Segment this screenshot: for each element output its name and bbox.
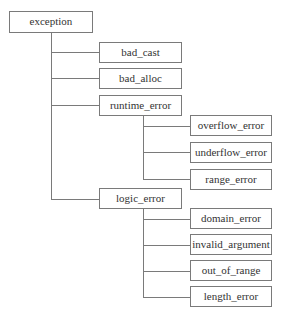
node-overflow-error: overflow_error — [190, 115, 272, 136]
connector-domain-error — [143, 219, 190, 220]
connector-underflow-error — [143, 152, 190, 153]
exception-hierarchy-diagram: exception bad_cast bad_alloc runtime_err… — [0, 0, 283, 320]
connector-out-of-range — [143, 271, 190, 272]
connector-runtime-error — [51, 105, 99, 106]
connector-overflow-error — [143, 126, 190, 127]
node-runtime-error: runtime_error — [99, 95, 182, 116]
node-invalid-argument: invalid_argument — [190, 234, 272, 255]
node-length-error: length_error — [190, 286, 272, 307]
connector-length-error — [143, 297, 190, 298]
connector-invalid-argument — [143, 245, 190, 246]
connector-bad-alloc — [51, 78, 99, 79]
node-underflow-error: underflow_error — [190, 142, 272, 163]
connector-logic-error — [51, 199, 99, 200]
node-bad-alloc: bad_alloc — [99, 68, 182, 89]
logic-error-branch-line — [143, 209, 144, 298]
root-trunk-line — [51, 32, 52, 200]
node-out-of-range: out_of_range — [190, 260, 272, 281]
node-bad-cast: bad_cast — [99, 42, 182, 63]
node-range-error: range_error — [190, 169, 272, 190]
connector-range-error — [143, 179, 190, 180]
node-exception: exception — [9, 11, 93, 33]
node-domain-error: domain_error — [190, 208, 272, 229]
connector-bad-cast — [51, 52, 99, 53]
node-logic-error: logic_error — [99, 188, 182, 209]
